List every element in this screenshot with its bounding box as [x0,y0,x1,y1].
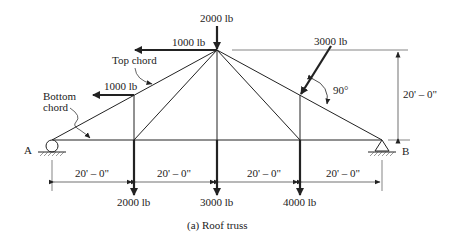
inclined-load-label: 3000 lb [314,35,348,47]
right-angle-arc [313,79,327,104]
height-dimension-label: 20' – 0" [403,88,437,100]
span-label-1: 20' – 0" [75,167,109,179]
bottom-left-load-label: 2000 lb [117,196,151,208]
support-b-label: B [402,145,409,157]
bottom-chord-leader [70,108,90,138]
top-chord-label: Top chord [112,54,157,66]
diagonal-right [217,50,300,140]
span-label-4: 20' – 0" [326,167,360,179]
support-a-label: A [24,144,32,156]
span-label-2: 20' – 0" [157,167,191,179]
support-b-pin [368,140,396,156]
bottom-chord-label-line2: chord [43,101,69,113]
top-left-horizontal-load-label: 1000 lb [104,80,138,92]
inclined-load-arrow [301,46,331,94]
bottom-right-load-label: 4000 lb [283,196,317,208]
apex-vertical-load-label: 2000 lb [200,12,234,24]
support-a-roller [38,140,66,156]
angle-label: 90° [333,84,348,96]
span-label-3: 20' – 0" [247,167,281,179]
bottom-center-load-label: 3000 lb [200,196,234,208]
top-chord-leader [135,68,152,84]
figure-caption: (a) Roof truss [187,219,248,232]
apex-horizontal-load-label: 1000 lb [172,36,206,48]
roof-truss-diagram: A B 2000 lb 1000 lb 1000 lb Top chord Bo… [0,0,450,240]
